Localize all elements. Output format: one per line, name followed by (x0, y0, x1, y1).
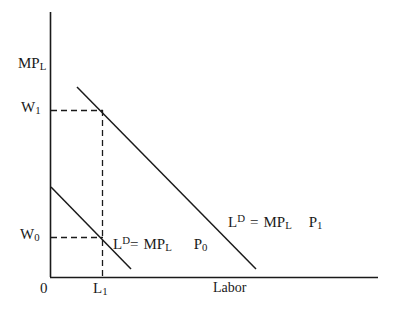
curve-p1-equals: = (250, 214, 258, 230)
origin-label: 0 (40, 281, 48, 296)
y-axis-title: MPL (18, 56, 46, 71)
curve-label-labor-demand-p0: LD=MPLP0 (113, 237, 208, 252)
curve-p1-mp-subscript: L (285, 219, 292, 231)
curve-p0-mp: MP (143, 236, 165, 252)
x-tick-l1-main: L (93, 280, 102, 296)
y-axis-title-main: MP (18, 55, 40, 71)
curve-p1-superscript-d: D (237, 212, 245, 224)
x-tick-l1-subscript: 1 (102, 285, 107, 297)
curve-p0-equals: = (130, 236, 138, 252)
y-tick-w1-main: W (21, 99, 35, 115)
x-tick-label-l1: L1 (93, 281, 108, 296)
y-tick-label-w1: W1 (21, 100, 41, 115)
y-axis-title-subscript: L (40, 60, 47, 72)
y-tick-w0-subscript: 0 (34, 231, 39, 243)
x-axis-title: Labor (213, 281, 246, 295)
curve-p0-mp-subscript: L (165, 241, 172, 253)
y-tick-w0-main: W (20, 226, 34, 242)
curve-p0-price: P (194, 236, 202, 252)
curve-p1-l: L (228, 214, 237, 230)
labor-demand-diagram: MPL Labor W1 W0 0 L1 LD=MPLP0 LD=MPLP1 (0, 0, 396, 311)
curve-p1-mp: MP (263, 214, 285, 230)
diagram-canvas (0, 0, 396, 311)
y-tick-w1-subscript: 1 (35, 104, 40, 116)
curve-labor-demand-p0 (51, 187, 131, 269)
curve-p1-price: P (309, 214, 317, 230)
curve-label-labor-demand-p1: LD=MPLP1 (228, 215, 323, 230)
curve-p0-price-subscript: 0 (202, 241, 207, 253)
curve-p0-l: L (113, 236, 122, 252)
curve-p0-superscript-d: D (122, 234, 130, 246)
y-tick-label-w0: W0 (20, 227, 40, 242)
curve-p1-price-subscript: 1 (317, 219, 322, 231)
